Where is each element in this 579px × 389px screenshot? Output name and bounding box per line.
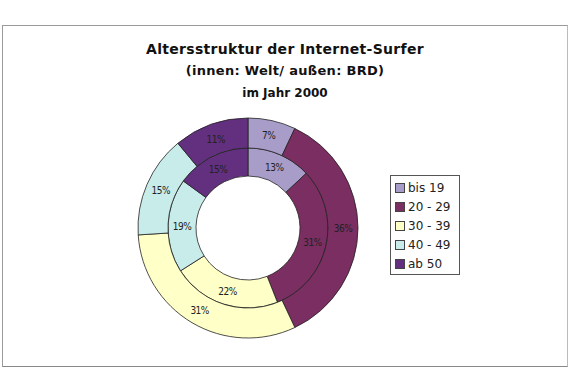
legend-item: 20 - 29 <box>395 197 459 216</box>
legend-swatch <box>395 183 405 193</box>
data-label-outer-1: 36% <box>334 223 353 234</box>
legend-item: ab 50 <box>395 254 459 273</box>
legend-swatch <box>395 240 405 250</box>
data-label-inner-4: 15% <box>209 164 228 175</box>
legend-item: bis 19 <box>395 178 459 197</box>
legend-swatch <box>395 259 405 269</box>
legend-label: 20 - 29 <box>408 200 451 214</box>
legend: bis 1920 - 2930 - 3940 - 49ab 50 <box>390 175 460 275</box>
legend-label: 40 - 49 <box>408 238 451 252</box>
data-label-outer-0: 7% <box>262 130 276 141</box>
donut-chart: 13%31%22%19%15%7%36%31%15%11% <box>0 0 579 389</box>
legend-swatch <box>395 202 405 212</box>
data-label-outer-2: 31% <box>190 305 209 316</box>
data-label-outer-4: 11% <box>207 134 226 145</box>
data-label-inner-0: 13% <box>265 162 284 173</box>
data-label-outer-3: 15% <box>152 185 171 196</box>
legend-item: 40 - 49 <box>395 235 459 254</box>
legend-label: bis 19 <box>408 181 444 195</box>
legend-swatch <box>395 221 405 231</box>
legend-item: 30 - 39 <box>395 216 459 235</box>
data-label-inner-2: 22% <box>218 286 237 297</box>
data-label-inner-3: 19% <box>173 221 192 232</box>
data-label-inner-1: 31% <box>303 237 322 248</box>
legend-label: 30 - 39 <box>408 219 451 233</box>
legend-label: ab 50 <box>408 257 442 271</box>
